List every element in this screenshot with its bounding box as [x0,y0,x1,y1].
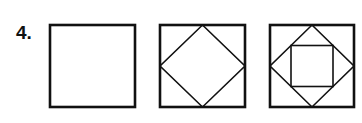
figure-sequence [0,0,362,123]
figure-square-diamond-inner-square [270,25,354,107]
figure-square-with-diamond [160,25,245,107]
figure-plain-square [50,25,135,107]
